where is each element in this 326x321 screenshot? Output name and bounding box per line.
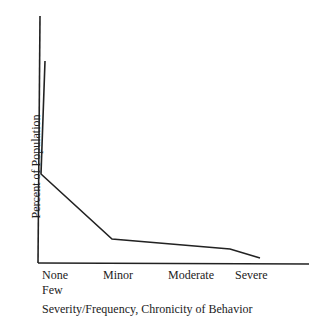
tick-label-none: None (42, 268, 68, 283)
y-axis-label: Percent of Population (29, 107, 44, 227)
x-axis-label: Severity/Frequency, Chronicity of Behavi… (42, 302, 253, 317)
tick-label-severe: Severe (235, 268, 268, 283)
x-axis (38, 263, 309, 264)
data-line (41, 61, 260, 258)
tick-label-minor: Minor (103, 268, 133, 283)
tick-label-few: Few (42, 283, 63, 298)
tick-label-moderate: Moderate (168, 268, 214, 283)
